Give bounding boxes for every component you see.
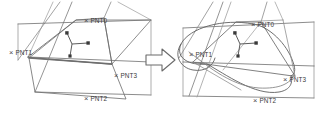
inner-crossing-d (283, 20, 295, 76)
triad-node-down (68, 54, 71, 57)
pnt1-label: PNT1 (16, 49, 33, 56)
pnt1-label: PNT1 (196, 51, 213, 58)
pnt3-label: PNT3 (121, 72, 138, 79)
diagonal-edge-e (275, 2, 283, 20)
lower-rail (183, 96, 314, 98)
triad-node-up (65, 31, 68, 34)
diagonal-edge-b (189, 2, 223, 96)
triad-node-right (254, 41, 257, 44)
inner-crossing-a (193, 62, 241, 90)
pnt3-label: PNT3 (290, 76, 307, 83)
pnt2-x-marker: × (253, 96, 257, 105)
deformed-curve-right (253, 24, 295, 76)
before-after-surface-deformation-diagram: × PNT0 × PNT1 × PNT2 × PNT3 (0, 0, 326, 115)
coordinate-triad-marker (65, 31, 90, 57)
pnt0-x-marker: × (251, 20, 255, 29)
triad-node-up (233, 31, 236, 34)
pnt2-label: PNT2 (91, 95, 108, 102)
triad-node-down (236, 54, 239, 57)
pnt1-x-marker: × (9, 48, 13, 57)
pnt1-x-marker: × (189, 50, 193, 59)
left-panel-drawing: × PNT0 × PNT1 × PNT2 × PNT3 (0, 0, 163, 115)
diagonal-edge-d (261, 2, 267, 22)
triad-node-right (86, 41, 89, 44)
pnt0-label: PNT0 (91, 17, 108, 24)
pnt3-x-marker: × (283, 75, 287, 84)
diagonal-edge-c (197, 2, 231, 97)
right-diagonal-edge-b (118, 2, 151, 20)
pnt2-x-marker: × (84, 94, 88, 103)
pnt0-x-marker: × (84, 16, 88, 25)
pnt0-label: PNT0 (258, 21, 275, 28)
deformed-curve-bottom (207, 64, 292, 92)
coordinate-triad-marker (233, 31, 258, 57)
pnt3-x-marker: × (114, 71, 118, 80)
pnt2-label: PNT2 (260, 97, 277, 104)
left-panel-point-labels: × PNT0 × PNT1 × PNT2 × PNT3 (9, 16, 138, 103)
right-panel-drawing: × PNT0 × PNT1 × PNT2 × PNT3 (163, 0, 326, 115)
